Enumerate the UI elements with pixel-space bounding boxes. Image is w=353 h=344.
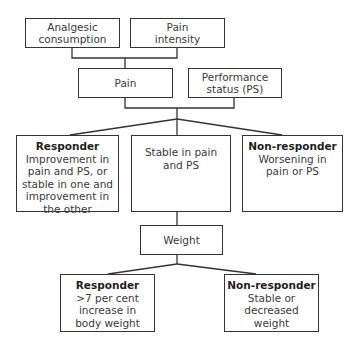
weight-non-responder-criteria: Stable or decreased weight [225, 292, 318, 330]
non-responder-title: Non-responder [248, 140, 336, 153]
performance-status-box: Performance status (PS) [188, 68, 282, 98]
responder-box: Responder Improvement in pain and PS, or… [16, 135, 119, 212]
stable-criteria: Stable in pain and PS [132, 146, 230, 171]
branch-to-non-responder [177, 119, 282, 135]
pain-label: Pain [113, 77, 139, 90]
performance-status-label: Performance status (PS) [193, 71, 277, 96]
weight-responder-criteria: >7 per cent increase in body weight [66, 292, 150, 330]
pain-intensity-box: Pain intensity [130, 18, 225, 48]
non-responder-criteria: Worsening in pain or PS [245, 153, 341, 178]
branch-to-responder [70, 119, 177, 135]
analgesic-consumption-box: Analgesic consumption [25, 18, 120, 48]
weight-label: Weight [161, 234, 202, 247]
pain-box: Pain [78, 68, 173, 98]
weight-non-responder-box: Non-responder Stable or decreased weight [224, 274, 319, 332]
weight-box: Weight [140, 225, 223, 255]
connector-level2-join [125, 97, 234, 108]
non-responder-box: Non-responder Worsening in pain or PS [242, 135, 343, 212]
connector-level1-join [72, 47, 177, 58]
weight-responder-title: Responder [76, 279, 139, 292]
responder-title: Responder [36, 140, 99, 153]
analgesic-consumption-label: Analgesic consumption [26, 21, 119, 46]
weight-non-responder-title: Non-responder [227, 279, 315, 292]
stable-box: Stable in pain and PS [131, 135, 231, 212]
pain-intensity-label: Pain intensity [151, 21, 205, 46]
weight-responder-box: Responder >7 per cent increase in body w… [60, 274, 155, 332]
branch-to-weight-responder [108, 264, 177, 274]
responder-criteria: Improvement in pain and PS, or stable in… [17, 153, 118, 216]
branch-to-weight-non-responder [177, 264, 256, 274]
